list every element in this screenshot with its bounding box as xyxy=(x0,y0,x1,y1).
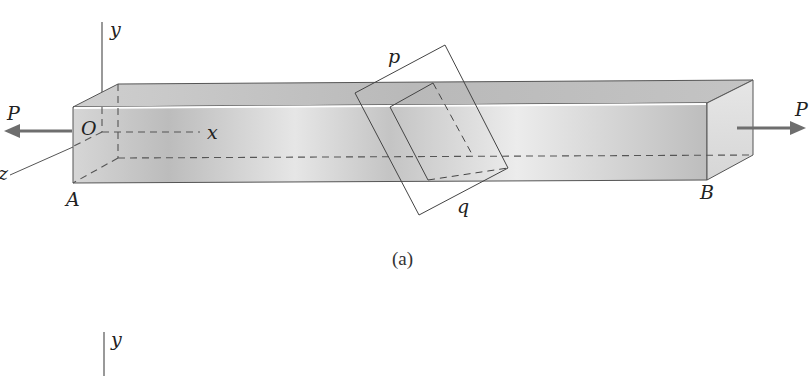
plane-p-label: p xyxy=(388,45,400,67)
load-left-label: P xyxy=(6,102,21,124)
z-axis-line xyxy=(10,147,73,175)
origin-label: O xyxy=(81,117,97,139)
load-arrow-left xyxy=(4,124,72,138)
load-right-label: P xyxy=(794,98,809,120)
plane-q-label: q xyxy=(457,195,469,217)
prismatic-bar-diagram: y z O x A B P P xyxy=(0,0,810,376)
y-axis-label: y xyxy=(109,18,121,40)
caption-a: (a) xyxy=(392,248,413,270)
end-a-label: A xyxy=(64,188,80,210)
figure-canvas: y z O x A B P P xyxy=(0,0,810,376)
y-axis-label-lower: y xyxy=(110,328,122,350)
x-axis-label: x xyxy=(207,121,218,143)
end-b-label: B xyxy=(699,181,714,203)
bar-front-face xyxy=(73,103,707,183)
z-axis-label: z xyxy=(0,162,9,184)
